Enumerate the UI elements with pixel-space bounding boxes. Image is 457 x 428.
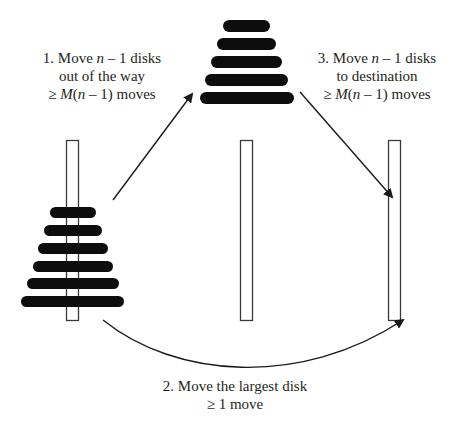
pegs: [67, 141, 401, 321]
moved-disk-3: [211, 56, 282, 68]
moved-disk-4: [205, 74, 288, 86]
step1-var-M: M: [60, 86, 73, 102]
step3-line1-suffix: – 1 disks: [379, 50, 436, 66]
peg-auxiliary: [241, 141, 253, 321]
source-disk-4: [33, 261, 113, 272]
step1-line2: out of the way: [14, 67, 190, 85]
step1-line3: ≥ M(n – 1) moves: [14, 85, 190, 103]
step3-arrow: [300, 92, 392, 197]
moved-disk-stack: [200, 20, 294, 104]
source-disk-3: [38, 243, 108, 254]
step3-line3: ≥ M(n – 1) moves: [302, 85, 452, 103]
step2-line1: 2. Move the largest disk: [150, 377, 320, 395]
step1-line1-suffix: – 1 disks: [104, 50, 161, 66]
peg-destination: [389, 141, 401, 321]
moved-disk-1: [223, 20, 270, 32]
step1-arrow: [113, 94, 192, 200]
step3-label: 3. Move n – 1 disks to destination ≥ M(n…: [302, 49, 452, 103]
step1-label: 1. Move n – 1 disks out of the way ≥ M(n…: [14, 49, 190, 103]
step1-var-n: n: [97, 50, 105, 66]
step2-arrow: [103, 320, 403, 367]
step3-ge: ≥: [323, 86, 335, 102]
step3-line1-prefix: 3. Move: [318, 50, 372, 66]
step2-label: 2. Move the largest disk ≥ 1 move: [150, 377, 320, 413]
moved-disk-5: [200, 92, 294, 104]
step1-line3-suffix: – 1) moves: [85, 86, 155, 102]
source-disk-1: [50, 207, 96, 218]
step1-line1-prefix: 1. Move: [43, 50, 97, 66]
step3-line3-suffix: – 1) moves: [360, 86, 430, 102]
moved-disk-2: [217, 38, 276, 50]
source-disk-6: [21, 296, 124, 307]
step1-line1: 1. Move n – 1 disks: [14, 49, 190, 67]
step3-var-M: M: [335, 86, 348, 102]
step3-var-n: n: [372, 50, 380, 66]
source-disk-2: [44, 225, 102, 236]
step1-ge: ≥: [48, 86, 60, 102]
step3-line2: to destination: [302, 67, 452, 85]
step2-line2: ≥ 1 move: [150, 395, 320, 413]
step3-line1: 3. Move n – 1 disks: [302, 49, 452, 67]
source-disk-5: [27, 278, 119, 289]
